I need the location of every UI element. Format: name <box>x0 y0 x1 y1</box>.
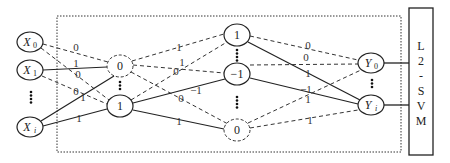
weight-xi-h1b: 1 <box>76 112 82 124</box>
hidden-layer-2: 1 −1 0 <box>224 24 250 141</box>
svg-text:1: 1 <box>234 28 240 42</box>
hidden2-node-0-dashed: 0 <box>224 119 250 141</box>
input-node-x0: X 0 <box>17 32 43 52</box>
svg-text:X: X <box>22 63 31 77</box>
weight-h1a-h2b: 1 <box>179 56 185 68</box>
svg-text:−1: −1 <box>231 67 244 81</box>
svg-text:i: i <box>375 104 377 113</box>
svm-letter-dash: - <box>419 69 423 83</box>
edge-h2c-yi <box>250 110 358 128</box>
output-ellipsis-icon <box>371 79 374 89</box>
input-layer: X 0 X 1 X i <box>17 32 43 137</box>
svm-letter-m: M <box>416 114 427 128</box>
weight-x1-h1b: 0 <box>73 85 79 97</box>
weight-h2c-y0: 1 <box>305 93 311 105</box>
output-node-yi: Y i <box>358 95 384 115</box>
weight-h2c-yi: 1 <box>307 114 313 126</box>
edge-xi-h1b <box>43 109 107 126</box>
hidden1-node-1: 1 <box>107 95 133 117</box>
weight-h1b-h2b: −1 <box>190 84 202 96</box>
input-ellipsis-icon <box>30 91 33 104</box>
hidden2-ellipsis-icon-top <box>236 49 239 62</box>
weight-xi-h1a: 1 <box>80 91 86 103</box>
hidden2-node-1: 1 <box>224 24 250 46</box>
svg-text:0: 0 <box>117 59 123 73</box>
svg-text:X: X <box>22 35 31 49</box>
svg-text:0: 0 <box>234 123 240 137</box>
weight-h1b-h2c: 1 <box>176 115 182 127</box>
edge-weight-labels: 0 1 0 0 1 1 1 1 0 0 −1 1 0 0 1 −1 1 1 <box>73 39 313 127</box>
edge-h2b-y0 <box>250 64 358 65</box>
weight-h1b-h2a: 0 <box>173 65 179 77</box>
weight-x0-h1a: 0 <box>73 41 79 53</box>
svg-text:i: i <box>34 126 36 135</box>
svg-text:0: 0 <box>374 62 378 71</box>
svg-text:0: 0 <box>33 41 37 50</box>
input-node-x1: X 1 <box>17 60 43 80</box>
svm-letter-l: L <box>417 39 424 53</box>
svm-letter-s: S <box>418 84 425 98</box>
output-layer: Y 0 Y i <box>358 53 384 115</box>
hidden1-ellipsis-icon <box>119 81 122 91</box>
weight-h2a-y0: 0 <box>305 39 311 51</box>
hidden2-ellipsis-icon-bottom <box>236 96 239 109</box>
svm-letter-2: 2 <box>418 54 424 68</box>
weight-h1a-h2c: 0 <box>178 92 184 104</box>
hidden-layer-1: 0 1 <box>107 55 133 117</box>
weight-h2b-y0: 0 <box>303 51 309 63</box>
svg-text:1: 1 <box>33 69 37 78</box>
svg-text:1: 1 <box>117 99 123 113</box>
input-node-xi: X i <box>17 117 43 137</box>
svg-text:X: X <box>22 120 31 134</box>
weight-h2a-yi: 1 <box>305 67 311 79</box>
weight-x0-h1b: 0 <box>75 68 81 80</box>
hidden1-node-0-dashed: 0 <box>107 55 133 77</box>
svm-letter-v: V <box>417 99 426 113</box>
network-diagram: 0 1 0 0 1 1 1 1 0 0 −1 1 0 0 1 −1 1 1 X … <box>0 0 450 163</box>
hidden2-node-neg1: −1 <box>224 63 250 85</box>
output-node-y0: Y 0 <box>358 53 384 73</box>
weight-h1a-h2a: 1 <box>176 41 182 53</box>
